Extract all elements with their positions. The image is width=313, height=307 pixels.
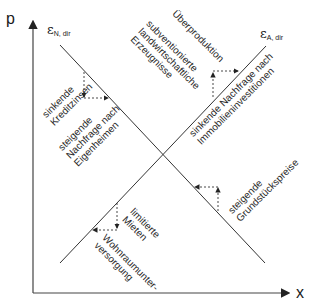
x-axis-label: x [296,284,304,302]
shift-arrow-grundstueckspreise [195,187,218,211]
y-axis-label: p [6,10,15,28]
demand-curve-label: εN, dir [47,22,70,37]
supply-curve-label: εA, dir [260,26,283,41]
